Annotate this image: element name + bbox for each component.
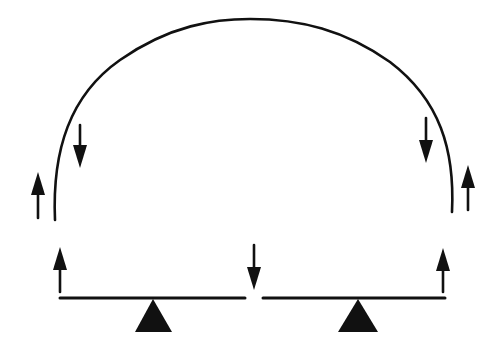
arrow-up-icon — [53, 247, 67, 292]
left-fulcrum-triangle — [135, 299, 172, 332]
lever-arch-diagram — [0, 0, 498, 356]
arrow-down-icon — [73, 125, 87, 168]
arrow-up-icon — [461, 165, 475, 210]
arrow-down-icon — [247, 245, 261, 290]
right-fulcrum-triangle — [338, 299, 378, 332]
left-lever — [60, 298, 245, 332]
arrow-up-icon — [31, 172, 45, 218]
arrow-down-icon — [419, 118, 433, 163]
arch-curve — [55, 19, 453, 220]
arrow-up-icon — [436, 248, 450, 292]
right-lever — [263, 298, 445, 332]
